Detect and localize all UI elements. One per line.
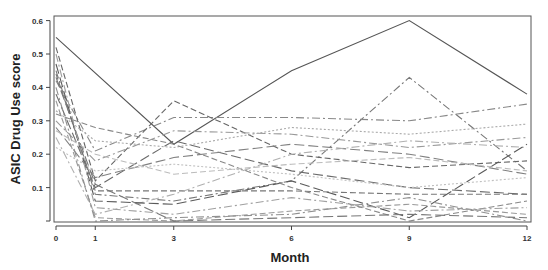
y-tick-label: 0.2 <box>32 150 44 159</box>
series-lines <box>56 21 527 221</box>
series-line-3 <box>56 81 527 151</box>
x-tick-label: 3 <box>172 234 177 243</box>
x-axis: 0136912 <box>54 226 532 243</box>
y-tick-label: 0.5 <box>32 50 44 59</box>
y-tick-label: 0.6 <box>32 17 44 26</box>
series-line-1 <box>56 21 527 145</box>
series-line-12 <box>56 64 527 218</box>
y-tick-label: 0.4 <box>32 83 44 92</box>
series-line-9 <box>56 128 527 178</box>
series-line-14 <box>56 148 527 188</box>
line-chart: 0.10.20.30.40.50.6 0136912 Month ASIC Dr… <box>0 0 548 270</box>
y-tick-label: 0.3 <box>32 117 44 126</box>
y-axis: 0.10.20.30.40.50.6 <box>32 17 50 221</box>
x-tick-label: 12 <box>523 234 532 243</box>
x-tick-label: 9 <box>407 234 412 243</box>
y-tick-label: 0.1 <box>32 184 44 193</box>
series-line-6 <box>56 111 527 148</box>
series-line-7 <box>56 121 527 161</box>
series-line-5 <box>56 94 527 194</box>
x-tick-label: 6 <box>289 234 294 243</box>
x-tick-label: 1 <box>93 234 98 243</box>
x-tick-label: 0 <box>54 234 59 243</box>
x-axis-title: Month <box>271 250 310 265</box>
y-axis-title: ASIC Drug Use score <box>8 54 23 185</box>
series-line-11 <box>56 101 527 221</box>
